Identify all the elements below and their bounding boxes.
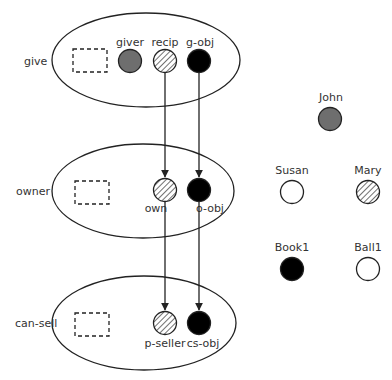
frame-can-sell: can-sell p-seller cs-obj: [15, 276, 236, 370]
slot-label-recip: recip: [151, 36, 178, 49]
slot-node-cs-obj: [188, 312, 211, 335]
entity-ball1: Ball1: [354, 241, 381, 281]
slot-node-recip: [154, 50, 177, 73]
frame-label-can-sell: can-sell: [15, 317, 57, 330]
entity-node-john: [319, 108, 342, 131]
slot-node-g-obj: [188, 50, 211, 73]
slot-node-own: [154, 179, 177, 202]
slot-label-g-obj: g-obj: [186, 36, 214, 49]
empty-slot-placeholder: [73, 49, 107, 72]
entity-book1: Book1: [275, 241, 309, 281]
entity-node-book1: [281, 258, 304, 281]
slot-label-own: own: [145, 202, 168, 215]
entity-susan: Susan: [275, 164, 308, 204]
entity-john: John: [318, 91, 343, 131]
frame-give: give giver recip g-obj: [24, 13, 240, 107]
frame-owner: owner own o-obj: [16, 144, 234, 238]
slot-node-p-seller: [154, 312, 177, 335]
empty-slot-placeholder: [75, 313, 109, 336]
entity-label-book1: Book1: [275, 241, 309, 254]
frame-ellipse-give: [52, 13, 240, 107]
empty-slot-placeholder: [75, 181, 109, 204]
entities: John Susan Mary Book1 Ball1: [275, 91, 382, 281]
entity-label-susan: Susan: [275, 164, 308, 177]
entity-label-ball1: Ball1: [354, 241, 381, 254]
entity-node-mary: [357, 181, 380, 204]
entity-node-susan: [281, 181, 304, 204]
slot-label-cs-obj: cs-obj: [187, 337, 220, 350]
slot-label-giver: giver: [116, 36, 144, 49]
slot-node-o-obj: [188, 179, 211, 202]
entity-label-john: John: [318, 91, 343, 104]
frame-label-owner: owner: [16, 185, 50, 198]
frame-label-give: give: [24, 55, 48, 68]
slot-label-p-seller: p-seller: [145, 337, 186, 350]
slot-label-o-obj: o-obj: [196, 202, 224, 215]
frame-binding-diagram: give giver recip g-obj owner own o-obj c…: [0, 0, 392, 380]
entity-label-mary: Mary: [354, 164, 382, 177]
entity-mary: Mary: [354, 164, 382, 204]
entity-node-ball1: [357, 258, 380, 281]
slot-node-giver: [119, 50, 142, 73]
